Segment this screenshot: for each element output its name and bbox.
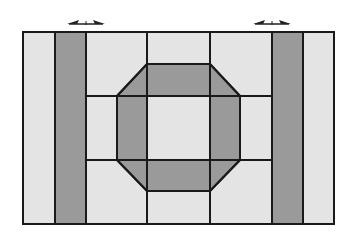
pattern-diagram — [0, 0, 349, 235]
left-strip — [55, 32, 86, 224]
right-strip — [272, 32, 303, 224]
octagon-center-cell — [147, 96, 210, 160]
arrowhead-right-icon — [279, 20, 291, 24]
right-double-arrow-icon — [253, 20, 291, 25]
arrowhead-right-icon — [93, 20, 105, 24]
arrowhead-left-icon — [67, 20, 79, 24]
left-double-arrow-icon — [67, 20, 105, 25]
arrowhead-left-icon — [253, 20, 265, 24]
